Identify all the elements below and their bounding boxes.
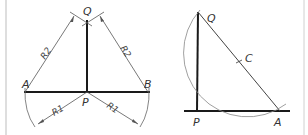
arc-r1-left — [25, 88, 35, 127]
arrowhead-icon — [132, 119, 138, 124]
center-mark-c — [236, 60, 242, 63]
dimension-label-r2-right: R2 — [118, 44, 133, 60]
point-label-q: Q — [83, 5, 92, 18]
figure-right: Q C P A — [184, 10, 290, 129]
dimension-label-r1-left: R1 — [50, 103, 65, 118]
point-label-q: Q — [207, 12, 216, 25]
line-pq — [197, 12, 198, 111]
dimension-label-r2-left: R2 — [38, 45, 53, 61]
point-label-c: C — [245, 52, 253, 65]
point-label-a: A — [21, 78, 30, 91]
geometry-diagram: A B P Q R2 R2 R1 R1 Q C P A — [0, 0, 308, 135]
arc-r1-right — [140, 88, 149, 127]
arrowhead-icon — [100, 16, 104, 22]
figure-left: A B P Q R2 R2 R1 R1 — [21, 5, 152, 127]
point-label-p: P — [193, 116, 200, 129]
arc-semicircle — [184, 10, 286, 117]
arrowhead-icon — [38, 119, 44, 124]
point-label-b: B — [144, 78, 152, 91]
point-label-a: A — [273, 116, 282, 129]
dimension-label-r1-right: R1 — [105, 100, 120, 115]
point-label-p: P — [82, 96, 89, 109]
